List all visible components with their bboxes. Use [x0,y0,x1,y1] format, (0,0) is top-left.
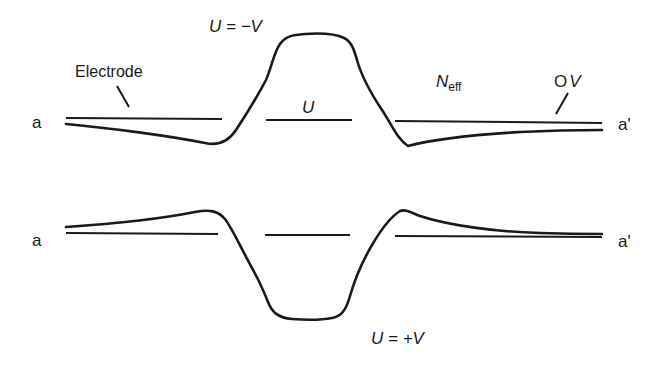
top-potential-curve [66,34,602,146]
top-right-end-label: a' [618,115,631,134]
electrode-label: Electrode [75,63,143,80]
top-electrode-right [395,121,602,123]
top-potential-label: U = −V [209,17,264,36]
bottom-electrode-left [66,233,218,234]
bottom-electrode-right [395,236,602,237]
top-left-end-label: a [32,113,42,132]
bottom-panel: a a' U = +V [32,210,631,348]
neff-label: Neff [436,72,462,94]
neff-label-sub: eff [448,80,462,94]
center-potential-label: U [302,98,315,117]
top-panel: a a' Electrode U = −V U Neff OV [32,17,631,146]
zero-volt-label: OV [554,72,582,91]
bottom-potential-label: U = +V [371,329,426,348]
bottom-left-end-label: a [32,231,42,250]
bottom-potential-curve [66,210,602,319]
top-electrode-left [66,118,222,119]
bottom-right-end-label: a' [618,232,631,251]
zero-volt-pointer [556,93,568,114]
neff-label-main: N [436,72,449,91]
electrode-pointer [117,86,129,107]
zero-volt-label-v: V [569,72,582,91]
zero-volt-label-o: O [554,72,567,91]
electrode-potential-diagram: a a' Electrode U = −V U Neff OV a a' U =… [0,0,665,373]
